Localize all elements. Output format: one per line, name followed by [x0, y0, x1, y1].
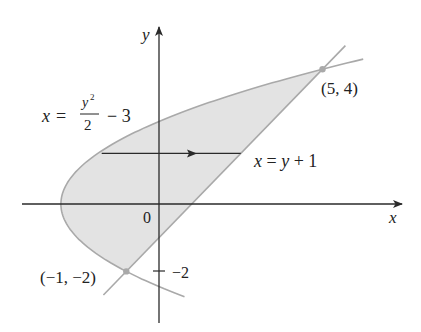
svg-text:2: 2 — [90, 92, 95, 102]
intersection-point-lower — [123, 268, 129, 274]
region-diagram: y x 0 −2 x = y 2 2 − 3 x = y + 1 (5, 4) … — [0, 0, 421, 332]
parabola-equation-label: x = y 2 2 − 3 — [41, 92, 131, 133]
svg-text:=: = — [56, 106, 66, 126]
svg-text:y: y — [80, 95, 89, 110]
y-axis-label: y — [140, 25, 150, 44]
svg-text:x: x — [41, 106, 50, 126]
intersection-point-upper — [319, 66, 325, 72]
lower-point-label: (−1, −2) — [40, 268, 96, 287]
svg-text:− 3: − 3 — [107, 106, 131, 126]
x-axis-label: x — [388, 208, 397, 227]
y-tick-label: −2 — [172, 264, 189, 281]
origin-label: 0 — [143, 209, 151, 226]
upper-point-label: (5, 4) — [321, 79, 358, 98]
line-equation-label: x = y + 1 — [253, 151, 317, 171]
svg-text:2: 2 — [84, 117, 92, 133]
